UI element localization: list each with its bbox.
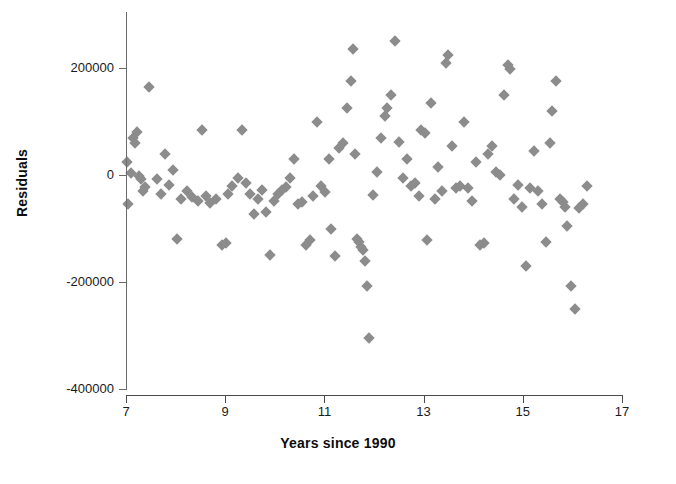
scatter-point (433, 161, 444, 172)
scatter-point (582, 180, 593, 191)
scatter-chart-figure: 2000000-200000-400000 7911131517 Residua… (0, 0, 676, 484)
x-axis-line (126, 395, 623, 396)
scatter-point (467, 195, 478, 206)
x-axis-title: Years since 1990 (0, 435, 676, 451)
y-tick-mark (119, 175, 126, 176)
scatter-point (421, 235, 432, 246)
scatter-point (359, 255, 370, 266)
scatter-point (447, 140, 458, 151)
y-tick-label: -400000 (14, 381, 114, 396)
scatter-point (151, 174, 162, 185)
scatter-point (347, 44, 358, 55)
scatter-point (389, 36, 400, 47)
x-tick-label: 17 (602, 404, 642, 419)
scatter-point (264, 250, 275, 261)
scatter-point (159, 148, 170, 159)
scatter-point (459, 116, 470, 127)
scatter-point (260, 207, 271, 218)
scatter-point (197, 124, 208, 135)
scatter-point (324, 153, 335, 164)
scatter-point (520, 260, 531, 271)
y-tick-mark (119, 282, 126, 283)
x-tick-mark (126, 396, 127, 403)
x-tick-mark (523, 396, 524, 403)
scatter-point (540, 236, 551, 247)
scatter-point (508, 193, 519, 204)
x-tick-label: 7 (106, 404, 146, 419)
y-axis-title: Residuals (14, 113, 30, 253)
scatter-point (236, 124, 247, 135)
scatter-point (342, 102, 353, 113)
x-tick-mark (424, 396, 425, 403)
scatter-point (516, 201, 527, 212)
x-tick-mark (324, 396, 325, 403)
scatter-point (566, 281, 577, 292)
x-tick-label: 15 (503, 404, 543, 419)
scatter-point (425, 97, 436, 108)
scatter-point (163, 179, 174, 190)
y-tick-label: -200000 (14, 274, 114, 289)
scatter-point (248, 208, 259, 219)
scatter-point (512, 179, 523, 190)
y-axis-line (126, 12, 127, 390)
scatter-point (122, 199, 133, 210)
scatter-point (393, 136, 404, 147)
scatter-point (171, 234, 182, 245)
scatter-point (371, 167, 382, 178)
scatter-point (546, 105, 557, 116)
scatter-point (167, 164, 178, 175)
scatter-point (429, 193, 440, 204)
x-tick-label: 9 (205, 404, 245, 419)
scatter-point (308, 191, 319, 202)
x-tick-label: 11 (304, 404, 344, 419)
scatter-point (401, 153, 412, 164)
scatter-point (326, 223, 337, 234)
scatter-point (498, 89, 509, 100)
scatter-point (550, 76, 561, 87)
scatter-point (385, 89, 396, 100)
scatter-point (363, 333, 374, 344)
scatter-point (320, 186, 331, 197)
scatter-point (330, 251, 341, 262)
scatter-point (528, 145, 539, 156)
scatter-point (560, 201, 571, 212)
y-tick-mark (119, 389, 126, 390)
y-tick-mark (119, 68, 126, 69)
scatter-point (312, 116, 323, 127)
scatter-point (155, 188, 166, 199)
scatter-point (349, 148, 360, 159)
scatter-point (288, 153, 299, 164)
scatter-point (346, 76, 357, 87)
y-tick-label: 200000 (14, 60, 114, 75)
scatter-point (375, 132, 386, 143)
x-tick-label: 13 (404, 404, 444, 419)
scatter-point (471, 156, 482, 167)
scatter-point (413, 191, 424, 202)
scatter-point (562, 220, 573, 231)
scatter-point (367, 190, 378, 201)
scatter-point (437, 185, 448, 196)
scatter-point (361, 281, 372, 292)
x-tick-mark (622, 396, 623, 403)
scatter-point (397, 172, 408, 183)
scatter-point (570, 303, 581, 314)
scatter-point (463, 183, 474, 194)
scatter-point (536, 199, 547, 210)
scatter-point (143, 81, 154, 92)
x-tick-mark (225, 396, 226, 403)
scatter-point (544, 137, 555, 148)
